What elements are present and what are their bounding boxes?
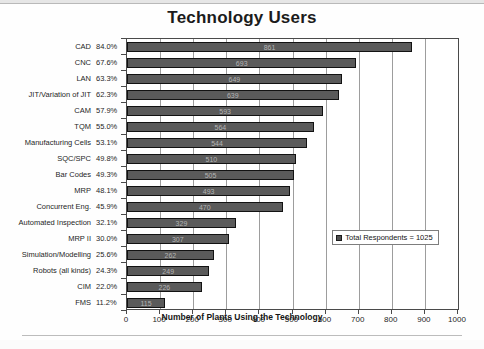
category-label-row: CIM22.0% xyxy=(0,278,126,294)
category-percent: 45.9% xyxy=(96,202,126,211)
bar-chart: CAD84.0%CNC67.6%LAN63.3%JIT/Variation of… xyxy=(0,36,484,308)
category-name: FMS xyxy=(0,298,96,307)
category-name: CIM xyxy=(0,282,96,291)
category-percent: 49.3% xyxy=(96,170,126,179)
category-label-row: FMS11.2% xyxy=(0,294,126,310)
bar-row: 861 xyxy=(127,42,458,52)
category-percent: 32.1% xyxy=(96,218,126,227)
category-percent: 84.0% xyxy=(96,42,126,51)
category-label-row: CAD84.0% xyxy=(0,38,126,54)
category-percent: 57.9% xyxy=(96,106,126,115)
bar xyxy=(127,282,202,292)
category-label-row: MRP II30.0% xyxy=(0,230,126,246)
bar xyxy=(127,298,165,308)
category-name: SQC/SPC xyxy=(0,154,96,163)
category-label-row: JIT/Variation of JIT62.3% xyxy=(0,86,126,102)
category-label-row: Bar Codes49.3% xyxy=(0,166,126,182)
category-percent: 24.3% xyxy=(96,266,126,275)
category-label-row: Robots (all kinds)24.3% xyxy=(0,262,126,278)
category-percent: 30.0% xyxy=(96,234,126,243)
bar-row: 649 xyxy=(127,74,458,84)
category-percent: 67.6% xyxy=(96,58,126,67)
category-percent: 25.6% xyxy=(96,250,126,259)
category-name: MRP II xyxy=(0,234,96,243)
bar xyxy=(127,170,294,180)
bar xyxy=(127,266,209,276)
legend-label: Total Respondents = 1025 xyxy=(345,233,432,242)
bar xyxy=(127,154,296,164)
bar-series: 8616936496395935645445105054934703293072… xyxy=(127,39,458,309)
bar xyxy=(127,90,339,100)
category-percent: 62.3% xyxy=(96,90,126,99)
category-name: LAN xyxy=(0,74,96,83)
bar xyxy=(127,58,356,68)
category-name: CAM xyxy=(0,106,96,115)
category-name: Bar Codes xyxy=(0,170,96,179)
bar xyxy=(127,74,342,84)
category-label-row: SQC/SPC49.8% xyxy=(0,150,126,166)
category-name: MRP xyxy=(0,186,96,195)
page-edge-bottom-shade xyxy=(0,340,484,349)
legend-swatch-icon xyxy=(336,235,342,241)
category-percent: 48.1% xyxy=(96,186,126,195)
bar xyxy=(127,138,307,148)
category-name: Simulation/Modelling xyxy=(0,250,96,259)
category-name: CAD xyxy=(0,42,96,51)
bar-row: 544 xyxy=(127,138,458,148)
category-label-row: Manufacturing Cells53.1% xyxy=(0,134,126,150)
bar-row: 564 xyxy=(127,122,458,132)
bar-row: 115 xyxy=(127,298,458,308)
category-percent: 55.0% xyxy=(96,122,126,131)
category-label-row: CNC67.6% xyxy=(0,54,126,70)
category-name: Concurrent Eng. xyxy=(0,202,96,211)
bar-row: 505 xyxy=(127,170,458,180)
x-axis-title: Number of Plants Using the Technology xyxy=(0,312,484,322)
chart-legend: Total Respondents = 1025 xyxy=(332,230,438,245)
category-name: CNC xyxy=(0,58,96,67)
category-label-row: Automated Inspection32.1% xyxy=(0,214,126,230)
bar-row: 693 xyxy=(127,58,458,68)
category-axis: CAD84.0%CNC67.6%LAN63.3%JIT/Variation of… xyxy=(0,38,126,310)
bar xyxy=(127,218,236,228)
category-name: Robots (all kinds) xyxy=(0,266,96,275)
category-label-row: LAN63.3% xyxy=(0,70,126,86)
category-name: JIT/Variation of JIT xyxy=(0,90,96,99)
bar-row: 639 xyxy=(127,90,458,100)
chart-title: Technology Users xyxy=(0,8,484,28)
category-percent: 49.8% xyxy=(96,154,126,163)
bar xyxy=(127,234,229,244)
bar-row: 262 xyxy=(127,250,458,260)
bar-row: 593 xyxy=(127,106,458,116)
plot-area: 8616936496395935645445105054934703293072… xyxy=(126,38,459,310)
category-percent: 22.0% xyxy=(96,282,126,291)
category-label-row: Concurrent Eng.45.9% xyxy=(0,198,126,214)
category-label-row: MRP48.1% xyxy=(0,182,126,198)
bar-row: 249 xyxy=(127,266,458,276)
category-label-row: Simulation/Modelling25.6% xyxy=(0,246,126,262)
bar xyxy=(127,42,412,52)
bar-row: 226 xyxy=(127,282,458,292)
bar-row: 470 xyxy=(127,202,458,212)
category-name: TQM xyxy=(0,122,96,131)
page-edge-top-line xyxy=(0,3,484,4)
category-name: Manufacturing Cells xyxy=(0,138,96,147)
bar-row: 329 xyxy=(127,218,458,228)
bar-row: 493 xyxy=(127,186,458,196)
category-percent: 63.3% xyxy=(96,74,126,83)
bar xyxy=(127,202,283,212)
bar xyxy=(127,122,314,132)
category-label-row: CAM57.9% xyxy=(0,102,126,118)
bar xyxy=(127,186,290,196)
category-name: Automated Inspection xyxy=(0,218,96,227)
category-label-row: TQM55.0% xyxy=(0,118,126,134)
bar-row: 510 xyxy=(127,154,458,164)
category-percent: 11.2% xyxy=(96,298,126,307)
bar xyxy=(127,106,323,116)
bar xyxy=(127,250,214,260)
scanned-page: Technology Users CAD84.0%CNC67.6%LAN63.3… xyxy=(0,0,484,349)
category-percent: 53.1% xyxy=(96,138,126,147)
